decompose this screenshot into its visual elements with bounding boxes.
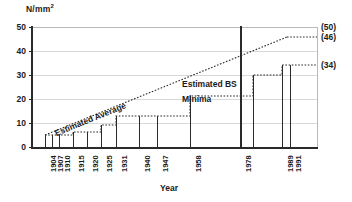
x-tick-label-1931: 1931 <box>120 155 129 172</box>
y-tick-label-0: 0 <box>6 142 26 152</box>
bar-1907 <box>52 135 53 147</box>
bar-1920 <box>87 132 88 147</box>
y-tick-label-40: 40 <box>6 46 26 56</box>
plot-frame-right <box>317 27 318 148</box>
bar-1989 <box>282 65 283 147</box>
gridline-30 <box>32 75 318 76</box>
bar-1925 <box>101 125 102 147</box>
x-axis-line <box>31 147 318 149</box>
x-tick-label-1920: 1920 <box>91 155 100 172</box>
y-tick-label-30: 30 <box>6 70 26 80</box>
series-label-estimated-bs-line2: Minima <box>182 94 211 104</box>
chart-container: N/mm2 50 40 30 20 10 0 1904 1 <box>0 0 352 202</box>
x-tick-label-1991: 1991 <box>294 155 303 172</box>
y-tick-label-50: 50 <box>6 22 26 32</box>
y-tick-label-10: 10 <box>6 118 26 128</box>
x-tick-label-1925: 1925 <box>105 155 114 172</box>
x-tick-label-1958: 1958 <box>194 155 203 172</box>
bar-1904 <box>45 135 46 147</box>
x-tick-label-1915: 1915 <box>77 155 86 172</box>
x-tick-label-1910: 1910 <box>63 155 72 172</box>
bar-1915 <box>73 132 74 147</box>
bar-1978 <box>240 26 242 147</box>
bar-1947 <box>157 116 158 147</box>
annotation-34: (34) <box>321 60 336 70</box>
series-label-estimated-bs-line1: Estimated BS <box>182 79 237 89</box>
gridline-20 <box>32 99 318 100</box>
plot-frame-top <box>32 27 318 28</box>
x-tick-label-1947: 1947 <box>161 155 170 172</box>
x-tick-label-1940: 1940 <box>143 155 152 172</box>
bar-1940 <box>139 116 140 147</box>
bar-1978-step <box>253 75 254 147</box>
annotation-50: (50) <box>321 22 336 32</box>
gridline-40 <box>32 51 318 52</box>
x-axis-label: Year <box>160 183 178 193</box>
bar-1991 <box>290 65 291 147</box>
annotation-46: (46) <box>321 32 336 42</box>
y-tick-label-20: 20 <box>6 94 26 104</box>
y-axis-unit-label: N/mm2 <box>26 3 54 14</box>
bar-1931 <box>116 116 117 147</box>
y-axis-line <box>31 26 33 149</box>
x-tick-label-1978: 1978 <box>244 155 253 172</box>
